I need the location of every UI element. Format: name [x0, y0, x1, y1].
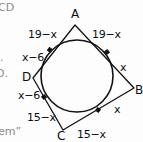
segment-label-dc-lower: 15−x: [27, 112, 56, 123]
vertex-label-b: B: [135, 84, 143, 96]
segment-label-ad-lower: x−6: [22, 52, 44, 63]
geometry-figure: A B C D 19−x 19−x x−6 x−6 x x 15−x 15−x …: [0, 0, 143, 142]
segment-label-ab-upper: 19−x: [92, 29, 121, 40]
segment-label-ab-lower: x: [120, 62, 126, 73]
segment-label-cb-left: 15−x: [77, 129, 106, 140]
margin-text-left-bullet-1: .: [0, 52, 4, 63]
vertex-label-c: C: [57, 130, 65, 142]
tangent-point-ad: [47, 47, 53, 53]
margin-text-top-left: CD: [0, 2, 14, 13]
segment-label-dc-upper: x−6: [18, 90, 40, 101]
vertex-label-a: A: [71, 8, 79, 20]
segment-label-cb-right: x: [114, 104, 120, 115]
vertex-label-d: D: [22, 71, 31, 83]
segment-label-ad-upper: 19−x: [28, 29, 57, 40]
margin-text-bottom-left: em”: [0, 126, 21, 137]
margin-text-left-bullet-2: D.: [0, 68, 8, 79]
